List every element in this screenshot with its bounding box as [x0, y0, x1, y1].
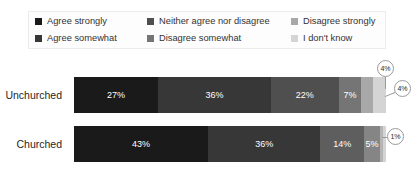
- stacked-bar-churched: 43% 36% 14% 5% 1% 1%: [74, 126, 386, 162]
- bar-value-churched-neither: 14%: [333, 139, 351, 149]
- legend-swatch-disagree-strongly: [291, 18, 298, 25]
- callout-unchurched-i-dont-know: 4%: [394, 80, 411, 97]
- bar-value-unchurched-agree-strongly: 27%: [107, 90, 125, 100]
- bar-segment-churched-agree-strongly[interactable]: 43%: [74, 126, 208, 162]
- bar-segment-churched-neither[interactable]: 14%: [320, 126, 364, 162]
- bar-value-churched-disagree-somewhat: 5%: [365, 139, 378, 149]
- bar-value-churched-agree-strongly: 43%: [132, 139, 150, 149]
- legend-swatch-agree-strongly: [35, 18, 42, 25]
- bar-segment-unchurched-neither[interactable]: 22%: [271, 77, 340, 113]
- legend-item-disagree-somewhat: Disagree somewhat: [147, 30, 291, 47]
- legend-grid: Agree strongly Neither agree nor disagre…: [29, 12, 385, 48]
- legend-swatch-disagree-somewhat: [147, 35, 154, 42]
- bar-segment-unchurched-agree-somewhat[interactable]: 36%: [158, 77, 270, 113]
- stacked-bar-chart: Unchurched 27% 36% 22% 7% 4% 4% Churched: [0, 60, 412, 174]
- bar-segment-churched-disagree-somewhat[interactable]: 5%: [364, 126, 380, 162]
- bar-segment-unchurched-agree-strongly[interactable]: 27%: [74, 77, 158, 113]
- bar-segment-churched-i-dont-know[interactable]: 1%: [383, 126, 386, 162]
- legend-item-disagree-strongly: Disagree strongly: [291, 13, 391, 30]
- chart-row-churched: Churched 43% 36% 14% 5% 1% 1%: [0, 126, 412, 162]
- bar-value-churched-agree-somewhat: 36%: [255, 139, 273, 149]
- callout-churched-i-dont-know: 1%: [387, 128, 404, 145]
- stacked-bar-unchurched: 27% 36% 22% 7% 4% 4%: [74, 77, 386, 113]
- chart-legend: Agree strongly Neither agree nor disagre…: [28, 11, 386, 49]
- row-label-unchurched: Unchurched: [0, 77, 68, 113]
- legend-label-agree-strongly: Agree strongly: [47, 17, 107, 26]
- callout-leader-unchurched-disagree-strongly: [385, 77, 386, 89]
- bar-segment-unchurched-disagree-strongly[interactable]: 4%: [361, 77, 373, 113]
- legend-item-neither-agree-nor-disagree: Neither agree nor disagree: [147, 13, 291, 30]
- legend-swatch-i-dont-know: [291, 35, 298, 42]
- bar-value-unchurched-disagree-somewhat: 7%: [344, 90, 357, 100]
- bar-value-unchurched-neither: 22%: [296, 90, 314, 100]
- bar-segment-unchurched-disagree-somewhat[interactable]: 7%: [339, 77, 361, 113]
- legend-label-disagree-somewhat: Disagree somewhat: [159, 34, 241, 43]
- legend-item-agree-strongly: Agree strongly: [35, 13, 147, 30]
- legend-label-disagree-strongly: Disagree strongly: [303, 17, 375, 26]
- legend-item-i-dont-know: I don't know: [291, 30, 391, 47]
- legend-swatch-neither-agree-nor-disagree: [147, 18, 154, 25]
- legend-item-agree-somewhat: Agree somewhat: [35, 30, 147, 47]
- callout-unchurched-disagree-strongly: 4%: [377, 60, 394, 77]
- legend-swatch-agree-somewhat: [35, 35, 42, 42]
- legend-label-neither-agree-nor-disagree: Neither agree nor disagree: [159, 17, 270, 26]
- row-label-churched: Churched: [0, 126, 68, 162]
- bar-value-unchurched-agree-somewhat: 36%: [205, 90, 223, 100]
- legend-label-agree-somewhat: Agree somewhat: [47, 34, 117, 43]
- chart-row-unchurched: Unchurched 27% 36% 22% 7% 4% 4%: [0, 77, 412, 113]
- legend-label-i-dont-know: I don't know: [303, 34, 352, 43]
- bar-segment-churched-agree-somewhat[interactable]: 36%: [208, 126, 320, 162]
